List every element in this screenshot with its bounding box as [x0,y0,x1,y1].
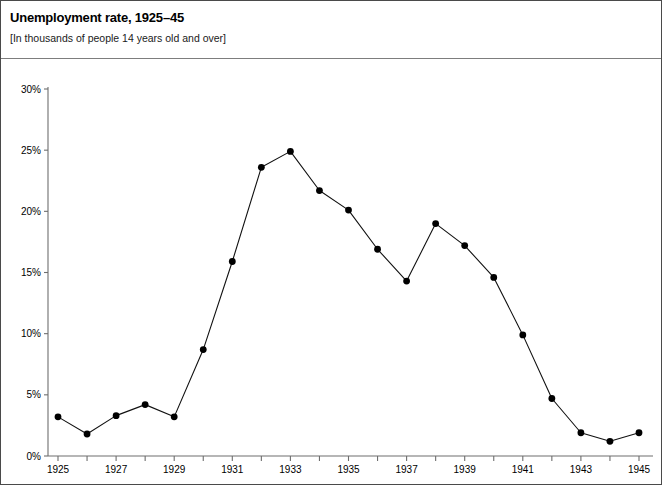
x-tick-label: 1945 [628,464,651,475]
data-point-marker [316,187,323,194]
y-tick-label: 25% [21,145,41,156]
data-point-marker [55,413,62,420]
x-tick-label: 1933 [279,464,302,475]
data-point-marker [578,429,585,436]
data-point-marker [490,274,497,281]
x-tick-label: 1935 [337,464,360,475]
data-point-marker [432,220,439,227]
x-tick-label: 1931 [221,464,244,475]
data-point-marker [113,412,120,419]
y-tick-label: 15% [21,267,41,278]
x-tick-label: 1925 [47,464,70,475]
data-point-marker [374,246,381,253]
y-tick-label: 10% [21,328,41,339]
data-point-marker [548,395,555,402]
x-tick-label: 1939 [454,464,477,475]
plot-area: 0%5%10%15%20%25%30% 19251927192919311933… [1,1,662,485]
x-tick-label: 1941 [512,464,535,475]
x-tick-label: 1927 [105,464,128,475]
y-tick-label: 5% [27,389,42,400]
chart-figure: Unemployment rate, 1925–45 [In thousands… [0,0,662,485]
data-point-markers [55,148,643,445]
data-point-marker [171,413,178,420]
data-point-marker [84,431,91,438]
x-tick-label: 1929 [163,464,186,475]
data-point-marker [519,331,526,338]
data-point-marker [607,438,614,445]
data-point-marker [345,207,352,214]
data-point-marker [200,346,207,353]
y-tick-label: 20% [21,206,41,217]
data-point-marker [142,401,149,408]
y-tick-label: 0% [27,451,42,462]
data-point-marker [403,278,410,285]
data-point-marker [229,258,236,265]
data-point-marker [287,148,294,155]
x-tick-label: 1937 [395,464,418,475]
y-tick-label: 30% [21,84,41,95]
x-axis: 1925192719291931193319351937193919411943… [47,456,653,475]
x-tick-label: 1943 [570,464,593,475]
y-axis: 0%5%10%15%20%25%30% [21,84,48,462]
data-point-marker [258,164,265,171]
data-point-marker [636,429,643,436]
line-chart-svg: 0%5%10%15%20%25%30% 19251927192919311933… [1,1,662,485]
data-point-marker [461,242,468,249]
